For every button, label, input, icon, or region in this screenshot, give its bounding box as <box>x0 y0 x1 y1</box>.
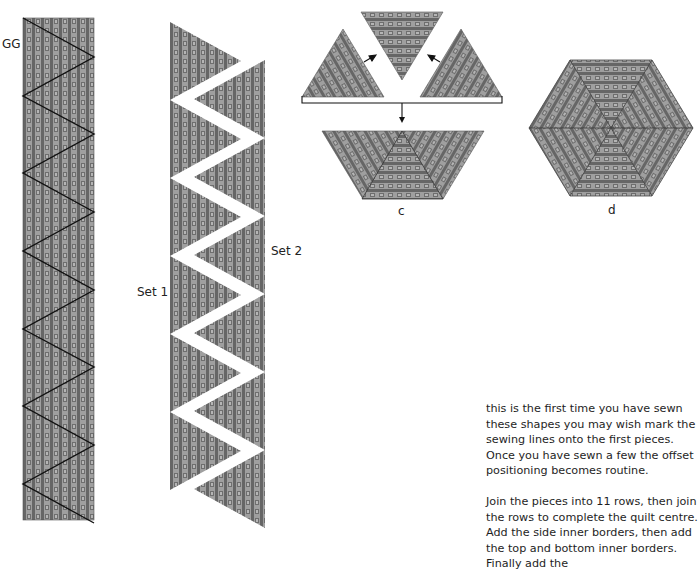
strip-gg <box>23 18 94 523</box>
label-d: d <box>608 204 616 216</box>
arrow-right-to-center <box>428 55 440 62</box>
paragraph-1: this is the first time you have sewn the… <box>486 401 699 479</box>
triangle-right <box>420 29 502 97</box>
label-set-1: Set 1 <box>137 286 168 298</box>
strip-sets <box>170 22 265 528</box>
panel-c <box>302 12 502 199</box>
label-set-2: Set 2 <box>271 245 302 257</box>
paragraph-2: Join the pieces into 11 rows, then join … <box>486 494 699 572</box>
label-gg: GG <box>2 38 21 50</box>
label-c: c <box>398 205 405 217</box>
panel-d <box>529 60 693 196</box>
instruction-text: this is the first time you have sewn the… <box>486 401 699 573</box>
arrow-down <box>399 117 405 123</box>
triangle-top <box>361 12 443 80</box>
triangle-left <box>302 29 384 97</box>
arrow-left-to-center <box>364 55 376 62</box>
